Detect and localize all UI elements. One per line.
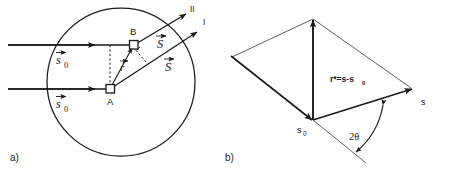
point-a-label: A [107,96,114,107]
scattered-vector-s-symbol: s [421,97,426,107]
figure-svg: s 0 s 0 S S r [0,0,456,178]
angle-2theta-label: 2θ [349,131,359,142]
scattering-point-A-marker [106,85,115,94]
panel-a-label: a) [10,152,19,163]
ray-I-label: I [203,17,205,27]
scattered-vector-upper-symbol: S [157,37,164,51]
point-b-label: B [130,26,136,37]
position-vector-symbol: r [120,61,125,73]
incident-vector-upper-subscript: 0 [64,60,68,70]
incident-vector-upper-symbol: s [56,53,61,67]
incident-vector-s0-subscript: 0 [303,130,307,137]
incident-vector-lower-symbol: s [56,97,61,111]
incident-vector-s0-symbol: s [297,125,302,135]
panel-b-label: b) [225,152,234,163]
incident-vector-lower-subscript: 0 [64,104,68,114]
scattering-vector-r-star-expression: r*=s-s [330,74,354,84]
figure-root: s 0 s 0 S S r [0,0,456,178]
ray-II-label: II [190,4,195,14]
scattering-point-B-marker [130,41,139,50]
scattered-vector-lower-symbol: S [165,60,172,74]
